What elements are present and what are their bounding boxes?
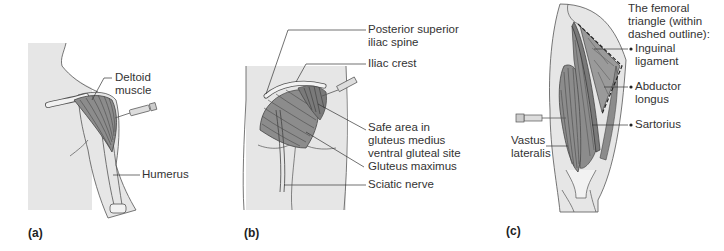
- label-vastus-lateralis: Vastus lateralis: [511, 134, 551, 160]
- label-gluteus-maximus: Gluteus maximus: [368, 160, 457, 173]
- label-sartorius: Sartorius: [635, 118, 681, 131]
- label-iliac-crest: Iliac crest: [368, 57, 417, 70]
- label-abductor-longus: Abductor longus: [635, 80, 681, 106]
- label-sciatic-nerve: Sciatic nerve: [368, 178, 434, 191]
- panel-a-deltoid: Deltoid muscle Humerus (a): [0, 0, 240, 251]
- label-humerus: Humerus: [142, 168, 189, 181]
- label-posterior-superior-iliac-spine: Posterior superior iliac spine: [368, 23, 459, 49]
- panel-b-ventrogluteal: Posterior superior iliac spine Iliac cre…: [240, 0, 480, 251]
- label-deltoid-muscle: Deltoid muscle: [115, 71, 151, 97]
- label-inguinal-ligament: Inguinal ligament: [635, 42, 678, 68]
- label-femoral-triangle: The femoral triangle (within dashed outl…: [628, 2, 710, 41]
- panel-tag-b: (b): [244, 226, 259, 240]
- panel-tag-c: (c): [506, 224, 521, 238]
- deltoid-illustration: [0, 0, 240, 251]
- panel-c-vastus-lateralis: The femoral triangle (within dashed outl…: [480, 0, 724, 251]
- label-safe-area: Safe area in gluteus medius ventral glut…: [368, 121, 461, 160]
- panel-tag-a: (a): [28, 226, 43, 240]
